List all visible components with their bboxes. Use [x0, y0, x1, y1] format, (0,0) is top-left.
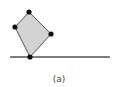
vertex-point-left — [12, 24, 17, 29]
vertex-point-bottom — [27, 54, 32, 59]
figure-caption: (a) — [0, 74, 118, 84]
vertex-point-top — [26, 9, 31, 14]
vertex-point-right — [48, 31, 53, 36]
quadrilateral-shape — [15, 12, 51, 57]
